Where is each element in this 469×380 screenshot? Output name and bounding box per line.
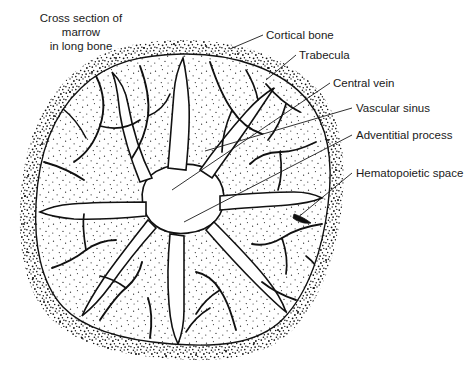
bone-disc <box>20 40 344 360</box>
figure-title: Cross section of marrow in long bone <box>40 12 123 52</box>
callout-label-hematopoietic-space: Hematopoietic space <box>356 167 463 179</box>
bone-marrow-illustration: Cross section of marrow in long bone <box>0 0 469 380</box>
callout-label-trabecula: Trabecula <box>299 49 350 61</box>
figure-title-line-2: marrow <box>62 26 101 38</box>
callout-label-cortical-bone: Cortical bone <box>266 29 334 41</box>
callout-label-adventitial-process: Adventitial process <box>356 129 453 141</box>
figure-title-line-3: in long bone <box>50 40 113 52</box>
leader-line-cortical-bone <box>230 35 263 49</box>
figure-title-line-1: Cross section of <box>40 12 123 24</box>
callout-label-central-vein: Central vein <box>333 77 394 89</box>
marrow-cross-section-figure: Cross section of marrow in long bone <box>0 0 469 380</box>
callout-label-vascular-sinus: Vascular sinus <box>356 102 430 114</box>
